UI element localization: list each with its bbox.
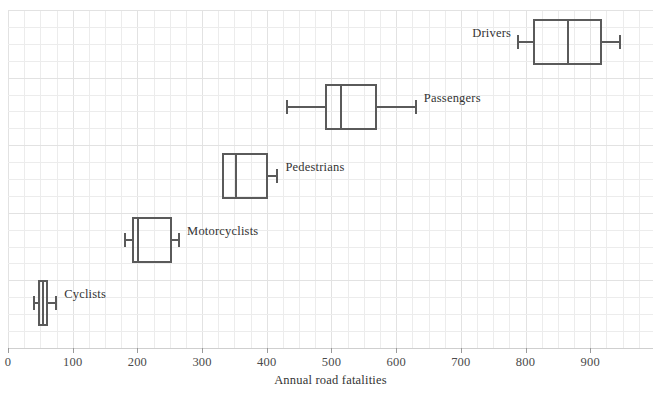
grid-line-horizontal [8,196,653,197]
boxplot-cap-low [124,233,126,247]
grid-line-horizontal [8,247,653,248]
x-tick-mark [590,348,591,353]
boxplot-chart: 0100200300400500600700800900 DriversPass… [0,0,661,393]
x-tick-mark [526,348,527,353]
boxplot-median-line [340,84,342,130]
x-tick-label: 400 [257,355,276,370]
boxplot-median-line [42,280,44,326]
x-tick-mark [8,348,9,353]
x-tick-label: 500 [322,355,341,370]
boxplot-label-passengers: Passengers [424,91,481,106]
boxplot-cap-low [286,100,288,114]
grid-line-horizontal [8,78,653,79]
grid-line-horizontal [8,263,653,264]
x-tick-mark [137,348,138,353]
x-tick-label: 0 [5,355,11,370]
x-tick-label: 100 [63,355,82,370]
boxplot-box [325,84,377,130]
grid-line-horizontal [8,10,653,11]
boxplot-whisker-low [286,106,325,108]
x-tick-label: 200 [128,355,147,370]
x-tick-mark [73,348,74,353]
x-tick-label: 900 [581,355,600,370]
boxplot-cap-high [415,100,417,114]
x-tick-mark [461,348,462,353]
x-tick-mark [396,348,397,353]
boxplot-median-line [567,19,569,65]
boxplot-box [222,153,268,199]
boxplot-cap-high [178,233,180,247]
x-tick-mark [331,348,332,353]
boxplot-median-line [137,217,139,263]
boxplot-whisker-low [517,41,533,43]
x-tick-mark [202,348,203,353]
boxplot-label-drivers: Drivers [0,26,511,41]
grid-line-horizontal [8,314,653,315]
boxplot-median-line [235,153,237,199]
boxplot-cap-high [276,169,278,183]
boxplot-label-pedestrians: Pedestrians [285,160,344,175]
grid-line-horizontal [8,179,653,180]
boxplot-label-cyclists: Cyclists [64,287,106,302]
boxplot-cap-high [55,296,57,310]
grid-line-horizontal [8,280,653,281]
grid-line-horizontal [8,230,653,231]
x-axis-title: Annual road fatalities [0,373,661,388]
x-tick-label: 600 [386,355,405,370]
boxplot-cap-high [619,35,621,49]
boxplot-whisker-high [377,106,417,108]
x-tick-label: 700 [451,355,470,370]
boxplot-label-motorcyclists: Motorcyclists [187,224,258,239]
x-tick-mark [267,348,268,353]
grid-line-horizontal [8,213,653,214]
boxplot-cap-low [517,35,519,49]
x-tick-label: 800 [516,355,535,370]
x-tick-label: 300 [192,355,211,370]
grid-line-horizontal [8,145,653,146]
boxplot-cap-low [33,296,35,310]
grid-line-horizontal [8,331,653,332]
